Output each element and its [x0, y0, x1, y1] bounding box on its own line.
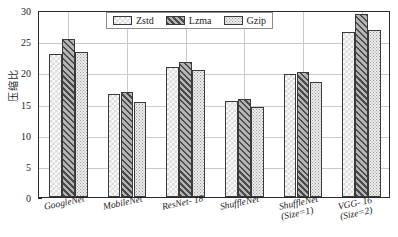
- bar-lzma-3: [238, 99, 251, 197]
- legend-swatch-lzma-icon: [166, 16, 185, 25]
- legend-item-zstd: Zstd: [113, 15, 154, 26]
- bar-lzma-4: [297, 72, 310, 197]
- bar-gzip-1: [134, 102, 147, 197]
- y-tick-label: 25: [5, 37, 31, 48]
- legend-label: Lzma: [189, 15, 212, 26]
- y-tick-mark: [38, 198, 42, 199]
- legend-label: Zstd: [136, 15, 154, 26]
- y-tick-label: 0: [5, 193, 31, 204]
- y-tick-label: 20: [5, 68, 31, 79]
- plot-area: [38, 11, 390, 198]
- bar-gzip-4: [310, 82, 323, 197]
- y-tick-label: 10: [5, 130, 31, 141]
- bar-gzip-2: [192, 70, 205, 197]
- bar-chart: 压缩比 051015202530 GoogleNetMobileNetResNe…: [0, 0, 398, 237]
- gridline: [39, 43, 389, 44]
- legend-label: Gzip: [247, 15, 266, 26]
- bar-gzip-0: [75, 52, 88, 197]
- bar-zstd-4: [284, 74, 297, 197]
- legend-item-lzma: Lzma: [166, 15, 212, 26]
- legend-item-gzip: Gzip: [224, 15, 266, 26]
- gridline: [39, 106, 389, 107]
- bar-gzip-3: [251, 107, 264, 197]
- bar-gzip-5: [368, 30, 381, 197]
- gridline: [39, 168, 389, 169]
- bar-zstd-3: [225, 101, 238, 197]
- bar-lzma-2: [179, 62, 192, 197]
- bar-lzma-5: [355, 14, 368, 197]
- legend-swatch-zstd-icon: [113, 16, 132, 25]
- y-tick-label: 30: [5, 6, 31, 17]
- bar-zstd-2: [166, 67, 179, 197]
- y-tick-label: 15: [5, 99, 31, 110]
- y-tick-label: 5: [5, 161, 31, 172]
- bar-zstd-5: [342, 32, 355, 197]
- bar-lzma-0: [62, 39, 75, 197]
- bar-zstd-1: [108, 94, 121, 197]
- gridline: [39, 137, 389, 138]
- bar-zstd-0: [49, 54, 62, 197]
- bar-lzma-1: [121, 92, 134, 197]
- legend-swatch-gzip-icon: [224, 16, 243, 25]
- gridline: [39, 74, 389, 75]
- legend: ZstdLzmaGzip: [106, 12, 273, 29]
